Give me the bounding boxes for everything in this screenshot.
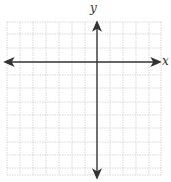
x-axis-left-arrow-icon: [5, 59, 13, 66]
y-axis-label: y: [90, 2, 97, 14]
y-axis-up-arrow-icon: [94, 22, 101, 30]
x-axis-right-arrow-icon: [152, 59, 160, 66]
grid-lines: [7, 22, 161, 175]
coordinate-plane: [0, 0, 171, 182]
x-axis-label: x: [162, 55, 169, 67]
y-axis-down-arrow-icon: [94, 170, 101, 178]
